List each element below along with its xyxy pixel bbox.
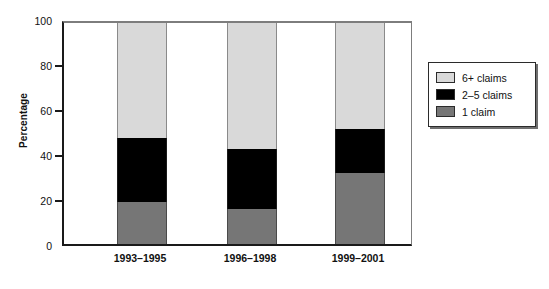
y-axis-ticks: 100 80 60 40 20 0	[0, 0, 62, 289]
y-tick-mark-60	[55, 110, 62, 112]
y-tick-label-80: 80	[40, 60, 52, 72]
y-tick-100: 100	[0, 15, 62, 27]
y-tick-mark-40	[55, 155, 62, 157]
legend-swatch-6plus-claims	[436, 72, 455, 83]
legend-item-1-claim[interactable]: 1 claim	[436, 103, 528, 120]
legend-item-2-5-claims[interactable]: 2–5 claims	[436, 86, 528, 103]
plot-area	[62, 21, 412, 246]
y-tick-label-0: 0	[46, 240, 52, 252]
x-tick-label-1999-2001: 1999–2001	[298, 252, 418, 264]
chart-figure: Percentage 100 80 60 40 20 0	[0, 0, 549, 289]
bar-1993-1995[interactable]	[117, 23, 167, 244]
bar-1999-2001[interactable]	[335, 23, 385, 244]
bar-segment-6plus-claims	[227, 23, 277, 149]
legend-label-6plus-claims: 6+ claims	[462, 72, 507, 84]
y-tick-80: 80	[0, 60, 62, 72]
y-tick-60: 60	[0, 105, 62, 117]
x-tick-label-1996-1998: 1996–1998	[190, 252, 310, 264]
y-tick-0: 0	[0, 240, 62, 252]
chart-legend: 6+ claims 2–5 claims 1 claim	[428, 62, 536, 127]
bar-1996-1998[interactable]	[227, 23, 277, 244]
y-tick-20: 20	[0, 195, 62, 207]
legend-label-2-5-claims: 2–5 claims	[462, 89, 512, 101]
bar-segment-2-5-claims	[335, 129, 385, 173]
legend-label-1-claim: 1 claim	[462, 106, 495, 118]
x-tick-label-1993-1995: 1993–1995	[80, 252, 200, 264]
bar-segment-6plus-claims	[117, 23, 167, 138]
y-tick-mark-20	[55, 200, 62, 202]
y-tick-label-40: 40	[40, 150, 52, 162]
bar-segment-1-claim	[117, 202, 167, 244]
y-tick-label-60: 60	[40, 105, 52, 117]
y-tick-40: 40	[0, 150, 62, 162]
legend-swatch-2-5-claims	[436, 89, 455, 100]
bar-segment-2-5-claims	[227, 149, 277, 209]
bar-segment-6plus-claims	[335, 23, 385, 129]
y-tick-label-100: 100	[34, 15, 52, 27]
bar-segment-2-5-claims	[117, 138, 167, 202]
legend-item-6plus-claims[interactable]: 6+ claims	[436, 69, 528, 86]
y-tick-mark-80	[55, 65, 62, 67]
bar-segment-1-claim	[335, 173, 385, 244]
bar-segment-1-claim	[227, 209, 277, 244]
legend-swatch-1-claim	[436, 106, 455, 117]
y-tick-label-20: 20	[40, 195, 52, 207]
